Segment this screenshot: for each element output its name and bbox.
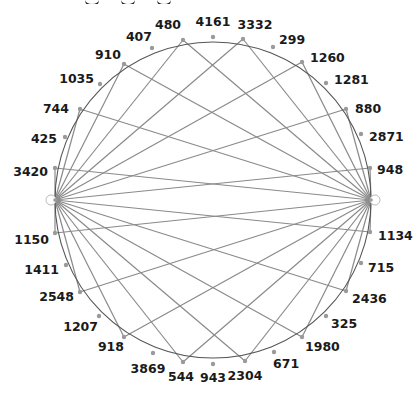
node-label: 943 [200, 370, 226, 385]
node-671[interactable] [272, 350, 276, 354]
circular-graph: 4804161333229912601281880287194811347152… [0, 0, 418, 397]
node-label: 299 [279, 32, 305, 47]
node-label: 325 [331, 316, 357, 331]
edge-480-hub-left [55, 40, 183, 200]
node-label: 1134 [378, 228, 413, 243]
node-label: 407 [126, 29, 152, 44]
edge-544-hub-left [55, 200, 183, 362]
node-544[interactable] [181, 360, 185, 364]
node-label: 2436 [352, 291, 387, 306]
node-1035[interactable] [98, 82, 102, 86]
heading-descender [157, 0, 171, 4]
edge-2436-hub-left [55, 200, 346, 291]
node-label: 1281 [334, 72, 369, 87]
hub-layer [46, 195, 380, 205]
node-label: 1150 [14, 232, 49, 247]
node-4161[interactable] [211, 35, 215, 39]
edge-2304-hub-right [245, 200, 371, 361]
node-2436[interactable] [344, 289, 348, 293]
edge-544-hub-right [183, 200, 371, 362]
node-943[interactable] [211, 362, 215, 366]
node-label: 2304 [228, 368, 263, 383]
node-407[interactable] [150, 46, 154, 50]
node-3869[interactable] [151, 351, 155, 355]
node-948[interactable] [368, 166, 372, 170]
node-label: 1207 [63, 319, 98, 334]
node-1980[interactable] [300, 335, 304, 339]
node-label: 910 [95, 47, 121, 62]
edge-880-hub-left [55, 109, 346, 200]
edge-918-hub-left [55, 200, 124, 337]
node-label: 918 [98, 339, 124, 354]
edge-2548-hub-right [80, 200, 371, 292]
edge-2304-hub-left [55, 200, 245, 361]
diagram-canvas: 4804161333229912601281880287194811347152… [0, 0, 418, 397]
edge-3332-hub-left [55, 39, 243, 200]
node-label: 671 [273, 356, 299, 371]
node-1411[interactable] [64, 263, 68, 267]
heading-descender [121, 0, 135, 4]
node-label: 2871 [369, 129, 404, 144]
node-label: 480 [155, 17, 181, 32]
edge-744-hub-left [55, 109, 80, 200]
node-325[interactable] [324, 314, 328, 318]
outer-circle [55, 42, 371, 358]
node-label: 3332 [238, 17, 273, 32]
node-1150[interactable] [53, 231, 57, 235]
node-label: 2548 [39, 289, 74, 304]
node-3420[interactable] [53, 166, 57, 170]
heading-descender [85, 0, 99, 4]
node-425[interactable] [63, 135, 67, 139]
node-label: 425 [31, 131, 57, 146]
node-label: 1980 [305, 339, 340, 354]
node-1281[interactable] [324, 81, 328, 85]
node-label: 715 [368, 260, 394, 275]
node-1260[interactable] [300, 60, 304, 64]
cropped-heading [85, 0, 225, 4]
node-2304[interactable] [243, 359, 247, 363]
node-layer [53, 35, 372, 366]
hub-right-anchor [369, 198, 373, 202]
edge-744-hub-right [80, 109, 371, 200]
node-715[interactable] [359, 261, 363, 265]
node-label: 544 [168, 369, 194, 384]
node-2871[interactable] [359, 132, 363, 136]
node-label: 4161 [196, 14, 231, 29]
node-1207[interactable] [97, 314, 101, 318]
node-880[interactable] [344, 107, 348, 111]
node-1134[interactable] [368, 230, 372, 234]
node-label: 3420 [13, 164, 48, 179]
hub-left-anchor [53, 198, 57, 202]
node-910[interactable] [122, 62, 126, 66]
node-744[interactable] [78, 107, 82, 111]
node-label: 744 [43, 101, 69, 116]
node-label: 880 [355, 101, 381, 116]
node-480[interactable] [181, 38, 185, 42]
node-3332[interactable] [241, 37, 245, 41]
edge-2436-hub-right [346, 200, 371, 291]
node-label: 1260 [310, 50, 345, 65]
node-299[interactable] [271, 45, 275, 49]
node-label: 948 [377, 162, 403, 177]
label-layer: 4804161333229912601281880287194811347152… [13, 14, 413, 385]
edge-3332-hub-right [243, 39, 371, 200]
node-label: 1411 [24, 262, 59, 277]
node-2548[interactable] [78, 290, 82, 294]
node-label: 3869 [131, 361, 166, 376]
edge-880-hub-right [346, 109, 371, 200]
node-label: 1035 [59, 71, 94, 86]
